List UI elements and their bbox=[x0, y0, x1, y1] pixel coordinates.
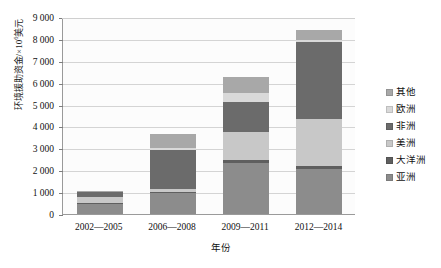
y-axis-tick-label: 2 000 bbox=[33, 166, 54, 176]
legend-item[interactable]: 欧洲 bbox=[386, 101, 441, 118]
bar-segment[interactable] bbox=[77, 204, 123, 214]
y-axis-tick-label: 5 000 bbox=[33, 101, 54, 111]
y-axis-tick-label: 4 000 bbox=[33, 122, 54, 132]
bar-segment[interactable] bbox=[150, 192, 196, 193]
bar-segment[interactable] bbox=[150, 134, 196, 148]
bar-segment[interactable] bbox=[77, 192, 123, 197]
bar-segment[interactable] bbox=[150, 189, 196, 192]
legend-swatch-icon bbox=[386, 123, 393, 130]
legend-item[interactable]: 美洲 bbox=[386, 135, 441, 152]
y-axis-tickmark bbox=[59, 215, 63, 216]
legend-label: 其他 bbox=[396, 88, 416, 98]
legend-label: 非洲 bbox=[396, 122, 416, 132]
bar-segment[interactable] bbox=[77, 197, 123, 202]
bar-segment[interactable] bbox=[296, 42, 342, 120]
stacked-bar[interactable] bbox=[296, 30, 342, 214]
y-axis-tickmark bbox=[59, 62, 63, 63]
legend-label: 美洲 bbox=[396, 139, 416, 149]
legend-label: 大洋洲 bbox=[396, 156, 426, 166]
chart-legend: 其他欧洲非洲美洲大洋洲亚洲 bbox=[386, 84, 441, 186]
y-axis-tick-label: 0 bbox=[49, 210, 54, 220]
y-axis-tickmark bbox=[59, 193, 63, 194]
legend-item[interactable]: 非洲 bbox=[386, 118, 441, 135]
bar-segment[interactable] bbox=[223, 102, 269, 132]
bar-group[interactable] bbox=[77, 18, 123, 214]
y-axis-tickmark bbox=[59, 127, 63, 128]
plot-top-border bbox=[62, 18, 355, 19]
stacked-bar[interactable] bbox=[223, 77, 269, 214]
y-axis-tickmark bbox=[59, 106, 63, 107]
legend-swatch-icon bbox=[386, 106, 393, 113]
legend-swatch-icon bbox=[386, 89, 393, 96]
bar-segment[interactable] bbox=[150, 148, 196, 150]
x-axis-title: 年份 bbox=[0, 240, 441, 254]
y-axis-tickmark bbox=[59, 84, 63, 85]
bar-segment[interactable] bbox=[296, 30, 342, 40]
bar-segment[interactable] bbox=[150, 193, 196, 214]
y-axis-tick-label: 8 000 bbox=[33, 35, 54, 45]
bar-group[interactable] bbox=[296, 18, 342, 214]
plot-area bbox=[62, 18, 355, 215]
bar-segment[interactable] bbox=[296, 40, 342, 41]
legend-swatch-icon bbox=[386, 157, 393, 164]
legend-item[interactable]: 亚洲 bbox=[386, 169, 441, 186]
bar-segment[interactable] bbox=[223, 160, 269, 162]
legend-item[interactable]: 大洋洲 bbox=[386, 152, 441, 169]
x-axis-tick-label: 2012—2014 bbox=[268, 222, 368, 232]
bar-segment[interactable] bbox=[223, 163, 269, 214]
y-axis-tick-label: 6 000 bbox=[33, 79, 54, 89]
bar-segment[interactable] bbox=[223, 132, 269, 160]
bar-segment[interactable] bbox=[296, 119, 342, 166]
bar-segment[interactable] bbox=[296, 166, 342, 169]
legend-label: 亚洲 bbox=[396, 173, 416, 183]
bar-segment[interactable] bbox=[296, 169, 342, 214]
legend-swatch-icon bbox=[386, 174, 393, 181]
bar-segment[interactable] bbox=[223, 77, 269, 92]
y-axis-tickmark bbox=[59, 171, 63, 172]
y-axis-tick-label: 9 000 bbox=[33, 13, 54, 23]
legend-item[interactable]: 其他 bbox=[386, 84, 441, 101]
y-axis-tick-label: 7 000 bbox=[33, 57, 54, 67]
bar-segment[interactable] bbox=[150, 150, 196, 189]
bar-segment[interactable] bbox=[77, 203, 123, 204]
bar-segment[interactable] bbox=[77, 191, 123, 192]
y-axis-tickmark bbox=[59, 149, 63, 150]
legend-label: 欧洲 bbox=[396, 105, 416, 115]
y-axis-tick-label: 1 000 bbox=[33, 188, 54, 198]
bar-segment[interactable] bbox=[223, 93, 269, 103]
y-axis-tick-label: 3 000 bbox=[33, 144, 54, 154]
chart-figure: 环境援助资金/×106美元 01 0002 0003 0004 0005 000… bbox=[0, 0, 441, 268]
stacked-bar[interactable] bbox=[77, 191, 123, 214]
legend-swatch-icon bbox=[386, 140, 393, 147]
bar-group[interactable] bbox=[223, 18, 269, 214]
bar-group[interactable] bbox=[150, 18, 196, 214]
stacked-bar[interactable] bbox=[150, 134, 196, 214]
y-axis-tickmark bbox=[59, 40, 63, 41]
